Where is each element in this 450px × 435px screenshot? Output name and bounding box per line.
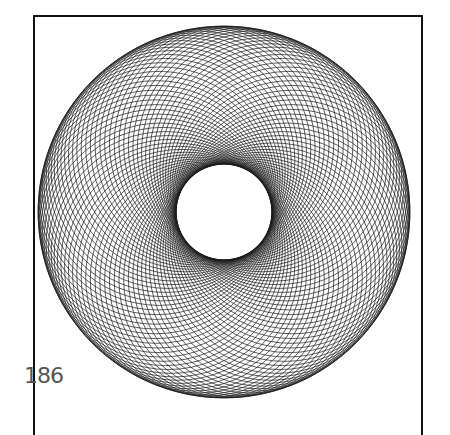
page-number: 186 [24,363,63,388]
